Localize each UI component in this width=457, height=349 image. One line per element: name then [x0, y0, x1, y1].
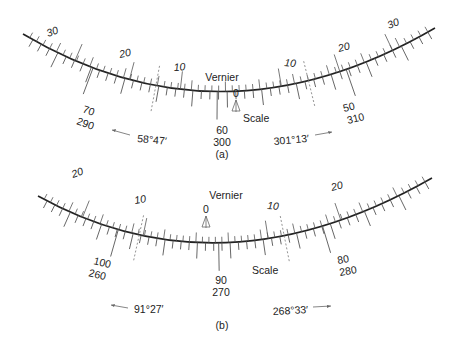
- tick-mark: [149, 84, 151, 92]
- scale-label-290: 290: [75, 115, 96, 132]
- tick-mark: [314, 79, 316, 87]
- tick-mark: [270, 88, 271, 96]
- tick-mark: [131, 81, 133, 89]
- tick-mark: [121, 78, 125, 93]
- tick-mark: [346, 69, 355, 95]
- tick-mark: [401, 46, 408, 60]
- tick-mark: [375, 58, 378, 65]
- tick-mark: [106, 220, 108, 226]
- tick-mark: [384, 54, 387, 61]
- tick-mark: [172, 241, 173, 249]
- tick-mark: [148, 237, 149, 245]
- tick-mark: [280, 236, 281, 244]
- tick-mark: [428, 32, 432, 39]
- tick-mark: [191, 80, 192, 90]
- scale-label-300: 300: [213, 136, 231, 148]
- tick-mark: [46, 49, 50, 56]
- tick-mark: [132, 223, 134, 233]
- tick-mark: [263, 239, 265, 255]
- tick-mark: [123, 231, 125, 239]
- tick-mark: [90, 57, 94, 66]
- tick-mark: [415, 180, 418, 185]
- tick-mark: [114, 76, 116, 84]
- tick-mark: [287, 79, 288, 85]
- tick-mark: [107, 227, 109, 235]
- tick-mark: [137, 76, 138, 82]
- tick-mark: [252, 84, 253, 90]
- tick-mark: [369, 54, 371, 60]
- tick-mark: [340, 72, 343, 80]
- tick-mark: [273, 82, 274, 88]
- vernier-number-10-right: 10: [267, 199, 280, 212]
- tick-mark: [192, 90, 193, 106]
- tick-mark: [401, 188, 404, 193]
- tick-mark: [106, 73, 109, 81]
- vernier-zero-a: 0: [233, 87, 239, 99]
- tick-mark: [63, 203, 66, 208]
- tick-mark: [287, 229, 288, 235]
- tick-mark: [367, 203, 369, 209]
- tick-mark: [30, 33, 33, 38]
- tick-mark: [80, 64, 83, 71]
- tick-mark: [347, 211, 349, 217]
- tick-mark: [244, 91, 245, 99]
- tick-mark: [354, 209, 356, 215]
- tick-mark: [416, 187, 420, 194]
- scale-label-60: 60: [216, 124, 228, 136]
- tick-mark: [404, 38, 407, 43]
- tick-mark: [335, 67, 337, 73]
- tick-mark: [44, 194, 47, 199]
- tick-mark: [156, 86, 159, 102]
- caption-a: (a): [216, 148, 229, 160]
- tick-mark: [271, 238, 272, 246]
- tick-mark: [293, 224, 295, 234]
- tick-mark: [56, 200, 59, 205]
- tick-mark: [422, 177, 425, 182]
- tick-mark: [36, 36, 39, 41]
- tick-mark: [323, 226, 331, 253]
- reading-left-a: 58°47′: [137, 132, 167, 147]
- tick-mark: [425, 182, 429, 189]
- tick-mark: [83, 201, 90, 218]
- tick-mark: [411, 34, 414, 39]
- tick-mark: [373, 208, 376, 215]
- tick-mark: [50, 43, 53, 48]
- tick-mark: [255, 240, 256, 248]
- tick-mark: [347, 218, 350, 226]
- tick-mark: [164, 229, 165, 239]
- tick-mark: [254, 234, 255, 240]
- tick-mark: [425, 27, 428, 32]
- tick-mark: [63, 57, 66, 64]
- vernier-number-20-right: 20: [336, 39, 351, 54]
- tick-mark: [361, 53, 365, 62]
- tick-mark: [399, 196, 406, 210]
- tick-mark: [139, 235, 141, 243]
- tick-mark: [383, 48, 385, 53]
- vernier-label-a: Vernier: [205, 71, 239, 83]
- tick-mark: [164, 81, 165, 87]
- reading-right-b: 268°33′: [272, 303, 308, 317]
- tick-mark: [393, 187, 397, 196]
- tick-mark: [307, 224, 309, 230]
- tick-mark: [395, 38, 399, 47]
- tick-mark: [110, 68, 112, 74]
- index-arrow-icon: [232, 100, 240, 112]
- tick-mark: [91, 222, 94, 230]
- caption-b: (b): [216, 319, 229, 331]
- tick-mark: [88, 214, 90, 220]
- tick-mark: [29, 40, 33, 47]
- tick-mark: [410, 42, 414, 49]
- tick-mark: [51, 205, 55, 212]
- tick-mark: [374, 201, 376, 206]
- tick-mark: [83, 68, 93, 94]
- tick-mark: [230, 242, 231, 258]
- tick-mark: [408, 184, 411, 189]
- tick-mark: [247, 241, 248, 249]
- tick-mark: [150, 79, 151, 85]
- tick-mark: [348, 62, 350, 68]
- tick-mark: [64, 212, 70, 227]
- tick-mark: [248, 235, 249, 241]
- tick-mark: [175, 89, 176, 97]
- scale-label-90: 90: [215, 274, 227, 286]
- tick-mark: [75, 44, 82, 61]
